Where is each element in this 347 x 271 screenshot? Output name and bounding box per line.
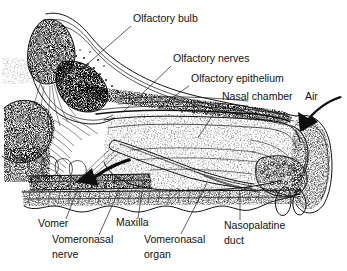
label-vomeronasal-nerve-line1: Vomeronasal [52,233,113,245]
label-nasopalatine-duct-line2: duct [224,234,244,246]
label-vomer: Vomer [38,217,69,229]
label-air: Air [305,90,318,102]
label-olfactory-epithelium: Olfactory epithelium [191,72,284,84]
label-olfactory-nerves: Olfactory nerves [173,52,249,64]
label-vomeronasal-nerve-line2: nerve [52,248,78,260]
label-nasopalatine-duct-line1: Nasopalatine [224,219,285,231]
anatomy-illustration: Olfactory bulb Olfactory nerves Olfactor… [0,0,347,271]
anatomy-figure: Olfactory bulb Olfactory nerves Olfactor… [0,0,347,271]
label-vomeronasal-organ-line2: organ [144,248,171,260]
label-olfactory-bulb: Olfactory bulb [133,12,198,24]
label-nasal-chamber: Nasal chamber [222,90,293,102]
label-vomeronasal-organ-line1: Vomeronasal [144,233,205,245]
label-maxilla: Maxilla [116,216,149,228]
